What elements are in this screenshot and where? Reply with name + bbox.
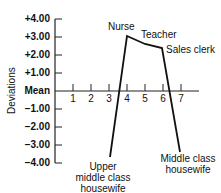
annotation-nurse: Nurse [108, 21, 135, 32]
x-tick-label: 3 [104, 94, 114, 104]
y-tick-label: −2.00 [2, 122, 50, 132]
deviation-line-chart: +4.00 +3.00 +2.00 +1.00 Mean −1.00 −2.00… [0, 0, 221, 193]
x-tick-label: 2 [86, 94, 96, 104]
x-tick-label: 4 [122, 94, 132, 104]
annotation-line: housewife [68, 183, 138, 193]
y-axis-title: Deviations [6, 67, 17, 114]
y-tick-label: +2.00 [2, 50, 50, 60]
annotation-upper-middle-class-housewife: Upper middle class housewife [68, 161, 138, 193]
annotation-sales-clerk: Sales clerk [166, 44, 215, 55]
annotation-line: Upper [68, 161, 138, 172]
annotation-line: housewife [155, 164, 221, 175]
annotation-line: middle class [68, 172, 138, 183]
y-tick-label: −3.00 [2, 140, 50, 150]
y-tick-label: +4.00 [2, 14, 50, 24]
y-tick-label: +3.00 [2, 32, 50, 42]
annotation-line: Middle class [155, 153, 221, 164]
x-tick-label: 7 [176, 94, 186, 104]
x-axis-ticks [73, 84, 181, 91]
annotation-teacher: Teacher [141, 29, 177, 40]
annotation-middle-class-housewife: Middle class housewife [155, 153, 221, 175]
x-tick-label: 6 [158, 94, 168, 104]
y-tick-label: −4.00 [2, 158, 50, 168]
x-tick-label: 5 [140, 94, 150, 104]
x-tick-label: 1 [68, 94, 78, 104]
